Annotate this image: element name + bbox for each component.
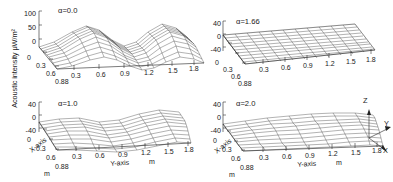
panel-alpha-1-ztick-1: 0 — [12, 113, 36, 122]
panel-alpha-1-xtick-0: 0 — [27, 136, 31, 143]
triad-x-label: X — [383, 146, 388, 155]
panel-alpha-0-xtick-2: 0.6 — [46, 70, 56, 77]
panel-alpha-166-ytick-3: 1.2 — [325, 60, 335, 67]
panel-alpha-0: α=0.0 100 50 0 — [14, 2, 190, 90]
panel-alpha-1-label: α=1.0 — [58, 99, 77, 108]
panel-alpha-0-ytick-2: 0.9 — [120, 70, 130, 77]
panel-alpha-1-xtick-3: 0.88 — [55, 163, 69, 170]
y-axis-name-left: Y-axis — [110, 159, 129, 167]
panel-alpha-2-ztick-1: 0 — [197, 113, 221, 122]
panel-alpha-166-xtick-0: 0 — [215, 59, 219, 66]
panel-alpha-1-ytick-3: 1.2 — [141, 149, 151, 156]
panel-alpha-0-xtick-0: 0 — [27, 54, 31, 61]
panel-alpha-166-ztick-1: 0 — [197, 32, 221, 41]
panel-alpha-0-xtick-3: 0.88 — [55, 78, 69, 85]
panel-alpha-166-label: α=1.66 — [236, 17, 260, 26]
panel-alpha-166-ytick-1: 0.6 — [281, 64, 291, 71]
panel-alpha-1-ytick-1: 0.6 — [95, 152, 105, 159]
panel-alpha-2-xtick-0: 0 — [213, 137, 217, 144]
panel-alpha-0-ytick-1: 0.6 — [96, 71, 106, 78]
panel-alpha-0-ztick-2: 0 — [12, 37, 36, 46]
panel-alpha-2-ytick-2: 0.9 — [305, 152, 315, 159]
panel-alpha-0-ytick-5: 1.8 — [189, 65, 199, 72]
panel-alpha-166-ztick-0: 40 — [197, 19, 221, 28]
y-axis-unit-right: m — [336, 159, 342, 166]
panel-alpha-0-label: α=0.0 — [58, 6, 77, 15]
panel-alpha-166-xtick-3: 0.88 — [238, 80, 252, 87]
panel-alpha-0-ytick-3: 1.2 — [144, 69, 154, 76]
panel-alpha-0-ytick-0: 0.3 — [71, 72, 81, 79]
panel-alpha-166-xtick-2: 0.6 — [231, 73, 241, 80]
panel-alpha-2-xtick-2: 0.6 — [231, 155, 241, 162]
panel-alpha-1-ytick-0: 0.3 — [72, 153, 82, 160]
x-axis-unit-right: m — [229, 171, 235, 178]
panel-alpha-166-ytick-5: 1.8 — [366, 56, 376, 63]
panel-alpha-2-label: α=2.0 — [236, 99, 255, 108]
panel-alpha-2-ztick-2: -40 — [195, 126, 221, 135]
panel-alpha-1-surface — [14, 92, 190, 180]
figure-root: Acoustic intensity μW/m² α=0.0 100 50 0 — [0, 0, 393, 182]
axis-orientation-triad: Z Y X — [355, 100, 393, 160]
panel-alpha-1-ytick-5: 1.8 — [184, 146, 194, 153]
panel-alpha-1: α=1.0 40 0 -40 — [14, 92, 190, 180]
panel-alpha-166-ztick-2: -40 — [197, 45, 221, 54]
panel-alpha-0-xtick-1: 0.3 — [36, 62, 46, 69]
triad-y-label: Y — [384, 119, 389, 128]
x-axis-unit-left: m — [44, 170, 50, 177]
panel-alpha-1-xtick-2: 0.6 — [46, 154, 56, 161]
panel-alpha-166-ytick-2: 0.9 — [303, 62, 313, 69]
panel-alpha-0-ztick-0: 100 — [12, 9, 36, 18]
panel-alpha-0-ztick-1: 50 — [12, 23, 36, 32]
panel-alpha-166-ytick-4: 1.5 — [346, 58, 356, 65]
triad-z-label: Z — [363, 96, 368, 105]
panel-alpha-1-ztick-2: -40 — [10, 126, 36, 135]
panel-alpha-1-ytick-4: 1.5 — [164, 148, 174, 155]
panel-alpha-166-xtick-1: 0.3 — [223, 66, 233, 73]
panel-alpha-2-ytick-3: 1.2 — [328, 150, 338, 157]
panel-alpha-1-ztick-0: 40 — [12, 100, 36, 109]
panel-alpha-0-ytick-4: 1.5 — [168, 67, 178, 74]
y-axis-unit-left: m — [149, 158, 155, 165]
y-axis-name-right: Y-axis — [297, 160, 316, 168]
panel-alpha-1-ytick-2: 0.9 — [118, 151, 128, 158]
panel-alpha-2-xtick-3: 0.88 — [240, 164, 254, 171]
panel-alpha-2-ytick-1: 0.6 — [282, 153, 292, 160]
panel-alpha-2-ytick-0: 0.3 — [259, 154, 269, 161]
panel-alpha-2-ztick-0: 40 — [197, 100, 221, 109]
panel-alpha-166-ytick-0: 0.3 — [259, 66, 269, 73]
panel-alpha-166: α=1.66 40 0 -40 — [205, 2, 381, 90]
